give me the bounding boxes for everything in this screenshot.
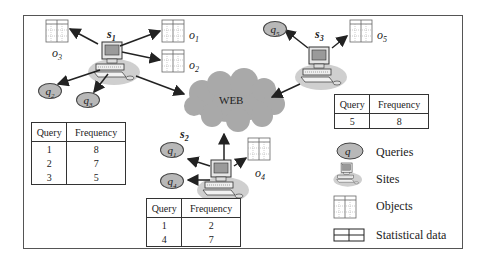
site-label-s1: s1 (107, 28, 116, 45)
legend-sites: Sites (376, 172, 399, 187)
query-node-q3: q3 (76, 92, 100, 108)
site-label-s2: s2 (180, 128, 189, 145)
header-frequency: Frequency (370, 95, 429, 114)
query-node-q5: q5 (263, 21, 287, 37)
legend-query-icon: q (345, 145, 351, 157)
query-node-q4: q4 (160, 173, 184, 189)
query-node-q2: q2 (38, 83, 62, 99)
object-label-o4: o4 (255, 167, 265, 184)
header-frequency: Frequency (182, 199, 241, 218)
table-row: 18 (32, 142, 126, 157)
web-label: WEB (219, 94, 243, 106)
stat-table-s3: QueryFrequency 58 (334, 94, 429, 129)
object-label-o3: o3 (52, 47, 62, 64)
header-query: Query (335, 95, 370, 114)
header-query: Query (32, 123, 67, 142)
header-frequency: Frequency (67, 123, 126, 142)
stat-table-s1: QueryFrequency 18 27 35 (31, 122, 126, 185)
table-row: 27 (32, 156, 126, 170)
object-label-o1: o1 (189, 29, 199, 46)
table-row: 47 (147, 232, 241, 247)
table-row: 35 (32, 170, 126, 185)
stat-table-s2: QueryFrequency 12 47 (146, 198, 241, 247)
legend-objects: Objects (376, 199, 413, 214)
object-label-o5: o5 (377, 29, 387, 46)
object-label-o2: o2 (189, 59, 199, 76)
table-row: 12 (147, 218, 241, 233)
legend-statistical-data: Statistical data (376, 228, 446, 243)
table-row: 58 (335, 114, 429, 129)
statistical-data-legend-icon (334, 229, 364, 241)
header-query: Query (147, 199, 182, 218)
site-label-s3: s3 (315, 28, 324, 45)
query-node-q1: q1 (160, 142, 184, 158)
legend-queries: Queries (376, 145, 413, 160)
